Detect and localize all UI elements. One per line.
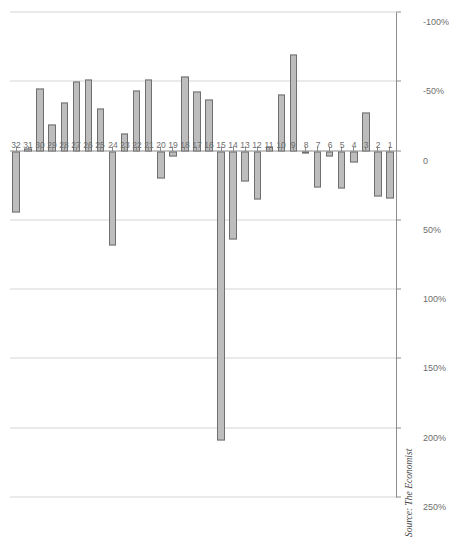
bar bbox=[241, 151, 248, 181]
category-axis-tick-label: 28 bbox=[60, 139, 69, 149]
value-axis-tick-label: -100% bbox=[423, 16, 449, 26]
category-axis-tick-label: 18 bbox=[180, 139, 189, 149]
category-axis-tick-label: 20 bbox=[156, 139, 165, 149]
value-axis-line bbox=[396, 12, 397, 497]
category-axis-tick-label: 19 bbox=[168, 139, 177, 149]
category-axis-tick-label: 21 bbox=[144, 139, 153, 149]
gridline bbox=[10, 496, 396, 497]
value-axis-tick-label: -50% bbox=[423, 85, 444, 95]
value-axis-tick-label: 250% bbox=[423, 501, 446, 511]
gridline bbox=[10, 11, 396, 12]
bar bbox=[217, 151, 224, 441]
category-axis-tick-label: 30 bbox=[35, 139, 44, 149]
gridline bbox=[10, 427, 396, 428]
category-axis-tick-label: 12 bbox=[253, 139, 262, 149]
category-axis-tick-label: 31 bbox=[23, 139, 32, 149]
bar bbox=[290, 54, 297, 151]
category-axis-tick-label: 3 bbox=[363, 139, 368, 149]
bar bbox=[350, 151, 357, 162]
category-axis-tick-label: 10 bbox=[277, 139, 286, 149]
plot-area: 250%200%150%100%50%0-50%-100%12345678910… bbox=[10, 12, 396, 497]
bar bbox=[386, 151, 393, 198]
category-axis-tick-label: 26 bbox=[84, 139, 93, 149]
category-axis-tick-label: 8 bbox=[303, 139, 308, 149]
bar bbox=[254, 151, 261, 200]
category-axis-tick-label: 23 bbox=[120, 139, 129, 149]
value-axis-tick-label: 100% bbox=[423, 293, 446, 303]
gridline bbox=[10, 219, 396, 220]
value-axis-tick-label: 150% bbox=[423, 362, 446, 372]
category-axis-tick-label: 22 bbox=[132, 139, 141, 149]
category-axis-tick-label: 13 bbox=[240, 139, 249, 149]
category-axis-tick-label: 5 bbox=[339, 139, 344, 149]
bar bbox=[109, 151, 116, 245]
value-axis-tick-label: 50% bbox=[423, 224, 441, 234]
category-axis-tick-label: 17 bbox=[192, 139, 201, 149]
category-axis-tick-label: 25 bbox=[96, 139, 105, 149]
category-axis-tick-label: 14 bbox=[228, 139, 237, 149]
bar bbox=[374, 151, 381, 197]
category-axis-tick-label: 15 bbox=[216, 139, 225, 149]
category-axis-tick-label: 1 bbox=[388, 139, 393, 149]
bar bbox=[229, 151, 236, 240]
value-axis-tick-label: 200% bbox=[423, 432, 446, 442]
category-axis-tick-label: 24 bbox=[108, 139, 117, 149]
bar bbox=[157, 151, 164, 179]
category-axis-tick-label: 7 bbox=[315, 139, 320, 149]
category-axis-tick-label: 29 bbox=[47, 139, 56, 149]
bar bbox=[12, 151, 19, 212]
bar bbox=[169, 151, 176, 157]
category-axis-tick-label: 16 bbox=[204, 139, 213, 149]
category-axis-tick-label: 6 bbox=[327, 139, 332, 149]
bar bbox=[326, 151, 333, 157]
category-axis-tick-label: 32 bbox=[11, 139, 20, 149]
category-axis-tick-label: 27 bbox=[72, 139, 81, 149]
category-axis-tick-label: 9 bbox=[291, 139, 296, 149]
category-axis-tick-label: 4 bbox=[351, 139, 356, 149]
value-axis-tick-label: 0 bbox=[423, 155, 428, 165]
category-axis-tick-label: 2 bbox=[376, 139, 381, 149]
gridline bbox=[10, 357, 396, 358]
category-axis-tick-label: 11 bbox=[265, 139, 274, 149]
gridline bbox=[10, 80, 396, 81]
bar bbox=[314, 151, 321, 187]
gridline bbox=[10, 288, 396, 289]
bar bbox=[338, 151, 345, 188]
